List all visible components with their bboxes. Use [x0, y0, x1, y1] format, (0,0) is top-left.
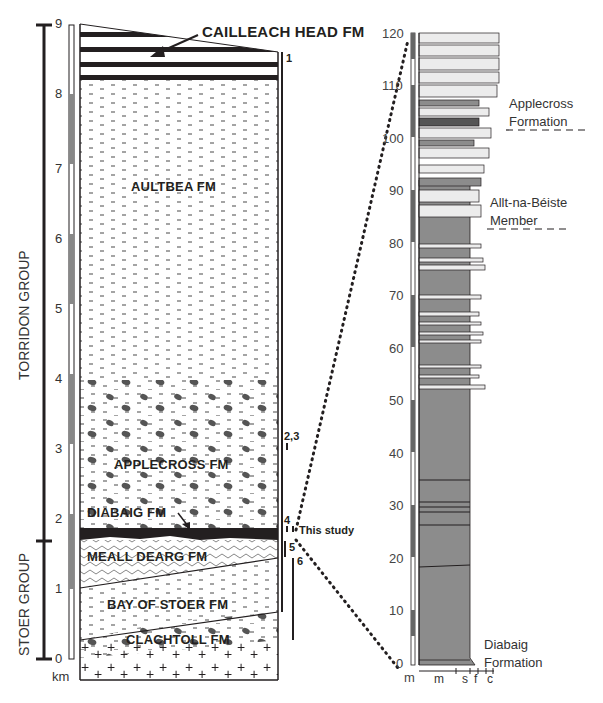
m-scale-bar	[411, 33, 415, 665]
km-unit-label: km	[52, 669, 69, 684]
annotation-line: Formation	[509, 113, 573, 131]
annotation-line: Allt-na-Béiste	[490, 194, 567, 212]
grain-silt: s	[462, 672, 468, 686]
formation-diabaig: DIABAIG FM	[87, 505, 166, 520]
km-tick-3: 3	[55, 441, 62, 456]
m-tick-120: 120	[382, 26, 404, 41]
km-tick-2: 2	[55, 511, 62, 526]
km-tick-4: 4	[55, 371, 62, 386]
grain-mud: m	[434, 672, 444, 686]
grain-fine: f	[474, 672, 477, 686]
km-tick-1: 1	[55, 581, 62, 596]
reference-6: 6	[297, 555, 303, 567]
reference-4: 4	[284, 514, 290, 526]
m-tick-50: 50	[389, 393, 403, 408]
km-tick-6: 6	[55, 231, 62, 246]
m-tick-70: 70	[389, 288, 403, 303]
km-tick-7: 7	[55, 161, 62, 176]
formation-cailleach-head: CAILLEACH HEAD FM	[202, 23, 365, 40]
km-tick-9: 9	[55, 16, 62, 31]
km-tick-5: 5	[55, 301, 62, 316]
group-bracket-torridon	[36, 25, 52, 659]
m-tick-10: 10	[389, 603, 403, 618]
reference-2-3: 2,3	[284, 430, 299, 442]
group-label-stoer: STOER GROUP	[16, 553, 32, 656]
stratigraphic-figure: + +	[0, 0, 603, 703]
m-tick-20: 20	[389, 551, 403, 566]
m-tick-90: 90	[389, 183, 403, 198]
m-tick-110: 110	[382, 78, 403, 93]
m-tick-0: 0	[396, 656, 403, 671]
reference-5: 5	[289, 541, 295, 553]
m-unit-label: m	[404, 670, 415, 685]
group-label-torridon: TORRIDON GROUP	[16, 250, 32, 380]
left-stratigraphic-column	[80, 24, 293, 680]
formation-clachtoll: CLACHTOLL FM	[126, 632, 230, 647]
reference-1: 1	[286, 52, 292, 64]
formation-meall-dearg: MEALL DEARG FM	[87, 549, 207, 564]
m-tick-60: 60	[389, 341, 403, 356]
annotation-applecross-formation: Applecross Formation	[509, 95, 573, 131]
m-tick-40: 40	[389, 446, 403, 461]
annotation-line: Formation	[484, 654, 543, 672]
annotation-diabaig-formation: Diabaig Formation	[484, 636, 543, 672]
annotation-allt-na-beiste-member: Allt-na-Béiste Member	[490, 194, 567, 230]
m-tick-100: 100	[382, 131, 404, 146]
formation-applecross: APPLECROSS FM	[114, 457, 229, 472]
grain-coarse: c	[487, 672, 493, 686]
annotation-line: Applecross	[509, 95, 573, 113]
formation-bay-of-stoer: BAY OF STOER FM	[107, 597, 228, 612]
m-tick-30: 30	[389, 498, 403, 513]
km-tick-8: 8	[55, 86, 62, 101]
connector-bottom	[296, 540, 398, 668]
km-tick-0: 0	[55, 651, 62, 666]
annotation-line: Diabaig	[484, 636, 543, 654]
annotation-line: Member	[490, 212, 567, 230]
m-tick-80: 80	[389, 236, 403, 251]
km-scale-bar	[69, 25, 74, 659]
this-study-label: This study	[299, 524, 354, 536]
formation-aultbea: AULTBEA FM	[131, 179, 216, 194]
